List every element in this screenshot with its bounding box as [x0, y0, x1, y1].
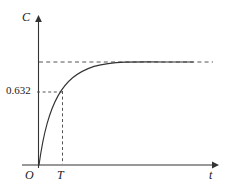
origin-label: O — [25, 169, 34, 181]
time-constant-tick-label: T — [57, 169, 64, 181]
y-axis-label: C — [22, 11, 30, 23]
plot-canvas — [0, 0, 230, 194]
exponential-response-figure: C t O T 0.632 — [0, 0, 230, 194]
x-axis-label: t — [209, 169, 212, 181]
value-tick-label: 0.632 — [6, 85, 31, 96]
x-axis-arrow — [212, 162, 219, 169]
y-axis-arrow — [35, 15, 42, 22]
